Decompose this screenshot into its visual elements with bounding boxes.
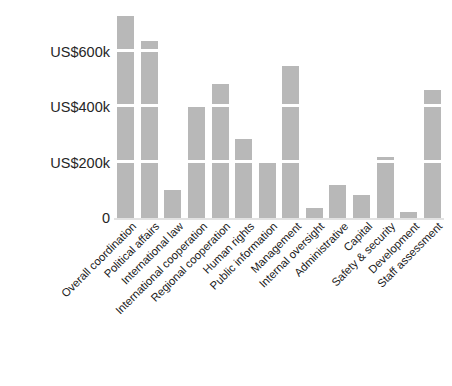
- plot-area: [114, 8, 444, 218]
- bar-staff-assessment: [424, 90, 441, 218]
- bar-regional-cooperation: [212, 84, 229, 218]
- bar-political-affairs: [141, 41, 158, 218]
- bar-capital: [353, 195, 370, 218]
- x-axis: Overall coordination Political affairs I…: [114, 220, 452, 386]
- y-tick-label-600k: US$600k: [2, 45, 110, 60]
- y-tick-label-400k: US$400k: [2, 100, 110, 115]
- bar-internal-oversight: [306, 208, 323, 219]
- bar-development: [400, 212, 417, 218]
- y-axis: US$600k US$400k US$200k 0: [0, 0, 110, 386]
- y-tick-label-200k: US$200k: [2, 156, 110, 171]
- bar-management: [282, 66, 299, 218]
- bar-safety-and-security: [377, 157, 394, 218]
- bar-public-information: [259, 161, 276, 218]
- bar-international-law: [164, 190, 181, 218]
- bar-administrative: [329, 185, 346, 218]
- bar-overall-coordination: [117, 16, 134, 218]
- y-tick-label-0: 0: [2, 211, 110, 226]
- bars-layer: [114, 8, 444, 218]
- bar-international-cooperation: [188, 106, 205, 218]
- bar-human-rights: [235, 139, 252, 218]
- bar-chart: US$600k US$400k US$200k 0: [0, 0, 452, 386]
